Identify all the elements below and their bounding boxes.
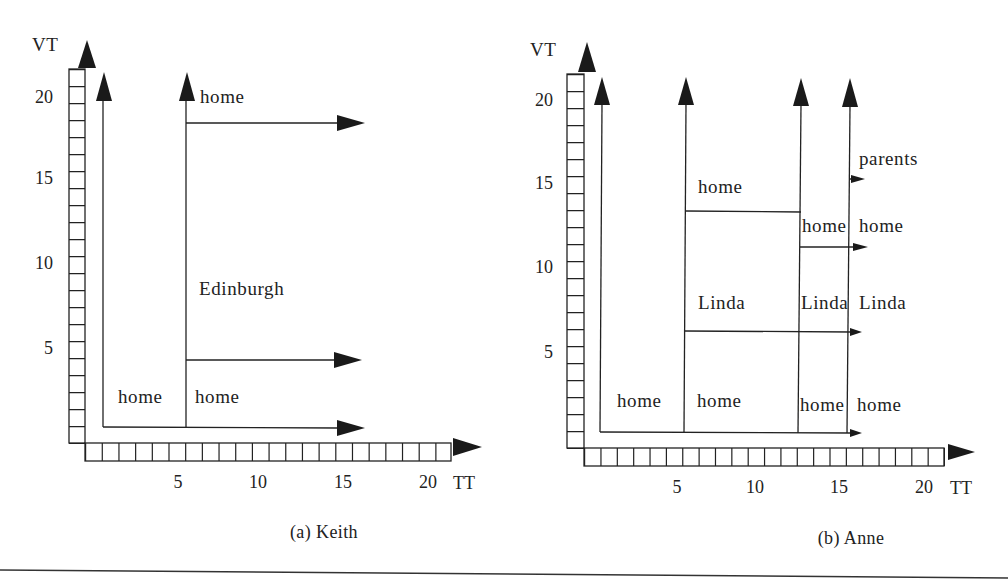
vt-tick-10: 10 xyxy=(535,257,553,277)
vt-tick-10: 10 xyxy=(35,253,53,273)
tt-tick-20: 20 xyxy=(915,477,933,497)
anne-label-linda-col2: Linda xyxy=(698,292,745,313)
tt-tick-10: 10 xyxy=(746,477,764,497)
anne-label-home-col3-upper: home xyxy=(802,215,847,236)
tt-axis-label: TT xyxy=(453,473,475,493)
vt-axis-label: VT xyxy=(530,39,557,60)
tt-tick-10: 10 xyxy=(249,472,267,492)
anne-label-home-col3-bottom: home xyxy=(800,394,845,415)
anne-label-home-col4-bottom: home xyxy=(857,394,902,415)
tt-tick-15: 15 xyxy=(334,472,352,492)
background xyxy=(0,0,1008,583)
tt-axis-label: TT xyxy=(950,478,972,498)
anne-label-home-col2-bottom: home xyxy=(697,390,742,411)
anne-label-parents: parents xyxy=(859,148,918,169)
tt-tick-5: 5 xyxy=(174,472,183,492)
keith-label-edinburgh: Edinburgh xyxy=(199,278,284,299)
tt-tick-5: 5 xyxy=(673,477,682,497)
anne-label-home-col1-bottom: home xyxy=(617,390,662,411)
keith-label-home-bottom-right: home xyxy=(195,386,240,407)
vt-tick-5: 5 xyxy=(44,338,53,358)
keith-label-home-top: home xyxy=(200,86,245,107)
vt-axis-label: VT xyxy=(32,34,59,55)
tt-tick-15: 15 xyxy=(830,477,848,497)
bitemporal-figure: VT TT 20 15 10 5 5 10 15 20 home Edinbur… xyxy=(0,0,1008,583)
vt-tick-15: 15 xyxy=(35,168,53,188)
vt-tick-20: 20 xyxy=(535,90,553,110)
anne-label-linda-col3: Linda xyxy=(801,292,848,313)
anne-label-home-col2-top: home xyxy=(698,176,743,197)
tt-tick-20: 20 xyxy=(419,472,437,492)
anne-label-home-col4-upper: home xyxy=(859,215,904,236)
vt-tick-15: 15 xyxy=(535,173,553,193)
vt-tick-20: 20 xyxy=(35,87,53,107)
anne-label-linda-col4: Linda xyxy=(859,292,906,313)
keith-label-home-bottom-left: home xyxy=(118,386,163,407)
caption-keith: (a) Keith xyxy=(290,522,358,543)
vt-tick-5: 5 xyxy=(544,342,553,362)
caption-anne: (b) Anne xyxy=(818,528,885,549)
